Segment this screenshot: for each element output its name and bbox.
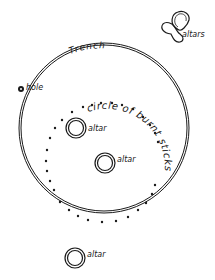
hole-label: hole [26, 84, 43, 92]
diagram-canvas: circle of burnt sticks Trench [0, 0, 215, 280]
altar-2-label: altar [117, 156, 135, 164]
altar-3-label: altar [87, 251, 105, 259]
altars-group-label: altars [182, 31, 205, 39]
altar-1-icon [66, 118, 86, 138]
altar-1-label: altar [88, 125, 106, 133]
hole-marker [18, 86, 24, 92]
altars-blob-inner-icon [175, 14, 186, 27]
altar-2-icon [95, 153, 115, 173]
trench-label: Trench [67, 40, 105, 55]
altar-3-icon [65, 248, 85, 268]
